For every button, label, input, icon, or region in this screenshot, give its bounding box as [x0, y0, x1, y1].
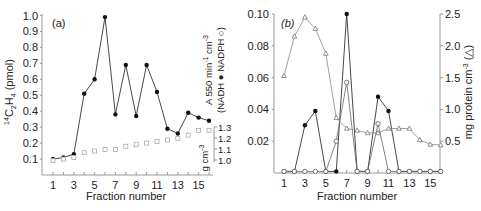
- marker-open-triangle: [334, 115, 339, 119]
- right-tick-label: 0.5: [445, 135, 460, 147]
- marker-open-square: [186, 133, 190, 137]
- marker-open-square: [155, 140, 159, 144]
- marker-filled-circle: [303, 123, 307, 127]
- y-tick-label: 0.08: [248, 40, 269, 52]
- x-tick-label: 11: [383, 177, 394, 189]
- marker-open-square: [51, 159, 55, 163]
- y-tick-label: 0.5: [23, 89, 38, 101]
- marker-open-triangle: [292, 34, 297, 38]
- marker-open-circle: [355, 169, 359, 173]
- marker-open-circle: [428, 169, 432, 173]
- marker-open-square: [145, 141, 149, 145]
- x-tick-label: 1: [50, 179, 56, 191]
- series-line: [284, 82, 441, 171]
- y-tick-label: 0.3: [23, 121, 38, 133]
- panel-b-x-label: Fraction number: [317, 190, 397, 202]
- marker-open-triangle: [324, 51, 329, 55]
- y-tick-label: 0.06: [248, 72, 269, 84]
- panel-a-right-label-2: (NADH ● NADPH ○): [215, 27, 226, 113]
- marker-open-circle: [303, 169, 307, 173]
- marker-open-circle: [282, 169, 286, 173]
- panel-b-right-label: mg protein cm-3 (△): [462, 45, 474, 139]
- marker-open-triangle: [303, 15, 308, 19]
- marker-filled-circle: [176, 131, 180, 135]
- x-tick-label: 7: [344, 177, 350, 189]
- marker-filled-circle: [82, 91, 86, 95]
- panel-b: 0.020.040.060.080.10 0.51.01.52.02.5 135…: [248, 8, 474, 202]
- marker-open-square: [134, 143, 138, 147]
- marker-open-triangle: [282, 73, 287, 77]
- right-tick-label: 1.0: [445, 103, 460, 115]
- panel-b-y-ticks: 0.020.040.060.080.10: [248, 8, 274, 147]
- y-tick-label: 0.10: [248, 8, 269, 20]
- right-tick-label: 2.0: [445, 40, 460, 52]
- panel-a-x-label: Fraction number: [86, 190, 166, 202]
- series-line: [53, 17, 209, 159]
- y-tick-label: 0.9: [23, 25, 38, 37]
- figure: 0.10.20.30.40.50.60.70.80.91.0 135791113…: [0, 0, 481, 211]
- marker-open-square: [165, 138, 169, 142]
- marker-filled-circle: [113, 112, 117, 116]
- marker-open-circle: [365, 169, 369, 173]
- y-tick-label: 0.7: [23, 57, 38, 69]
- panel-a: 0.10.20.30.40.50.60.70.80.91.0 135791113…: [3, 10, 231, 203]
- panel-b-label: (b): [281, 17, 295, 29]
- marker-filled-circle: [207, 119, 211, 123]
- y-tick-label: 1.0: [23, 10, 38, 22]
- marker-open-circle: [376, 122, 380, 126]
- x-tick-label: 15: [192, 179, 204, 191]
- marker-filled-circle: [196, 115, 200, 119]
- density-tick-label: 1.1: [218, 144, 231, 155]
- panel-b-series: [282, 12, 443, 174]
- marker-open-circle: [324, 169, 328, 173]
- marker-filled-circle: [124, 63, 128, 67]
- marker-open-square: [176, 136, 180, 140]
- marker-open-circle: [439, 169, 443, 173]
- marker-open-circle: [407, 169, 411, 173]
- x-tick-label: 13: [403, 177, 415, 189]
- right-tick-label: 2.5: [445, 8, 460, 20]
- marker-open-circle: [418, 169, 422, 173]
- density-tick-label: 1.3: [218, 122, 231, 133]
- panel-a-series: [51, 15, 211, 163]
- marker-open-square: [113, 147, 117, 151]
- marker-filled-circle: [376, 94, 380, 98]
- x-tick-label: 9: [365, 177, 371, 189]
- marker-filled-circle: [144, 63, 148, 67]
- panel-a-density-axis: 1.01.11.21.3: [214, 122, 231, 166]
- marker-filled-circle: [103, 15, 107, 19]
- x-tick-label: 15: [424, 177, 436, 189]
- marker-filled-circle: [186, 111, 190, 115]
- marker-open-square: [103, 147, 107, 151]
- panel-a-right-label-1: A 550 min-1 cm-3: [202, 35, 214, 105]
- marker-open-circle: [397, 169, 401, 173]
- y-tick-label: 0.2: [23, 137, 38, 149]
- marker-open-square: [207, 128, 211, 132]
- marker-open-square: [61, 157, 65, 161]
- marker-open-circle: [292, 169, 296, 173]
- x-tick-label: 1: [281, 177, 287, 189]
- marker-filled-circle: [155, 90, 159, 94]
- x-tick-label: 3: [302, 177, 308, 189]
- marker-open-square: [72, 155, 76, 159]
- marker-filled-circle: [134, 114, 138, 118]
- y-tick-label: 0.1: [23, 153, 38, 165]
- marker-open-circle: [386, 169, 390, 173]
- marker-filled-circle: [345, 12, 349, 16]
- marker-open-circle: [345, 80, 349, 84]
- y-tick-label: 0.6: [23, 73, 38, 85]
- x-tick-label: 3: [71, 179, 77, 191]
- y-tick-label: 0.04: [248, 103, 269, 115]
- density-tick-label: 1.2: [218, 133, 231, 144]
- marker-filled-circle: [92, 77, 96, 81]
- panel-a-label: (a): [52, 17, 65, 29]
- series-line: [284, 17, 441, 145]
- series-line: [284, 14, 441, 171]
- density-tick-label: 1.0: [218, 155, 231, 166]
- marker-open-square: [82, 151, 86, 155]
- marker-open-square: [197, 128, 201, 132]
- panel-a-y-ticks: 0.10.20.30.40.50.60.70.80.91.0: [23, 10, 42, 166]
- x-tick-label: 5: [323, 177, 329, 189]
- marker-open-circle: [334, 139, 338, 143]
- panel-b-right-ticks: 0.51.01.52.02.5: [440, 8, 460, 147]
